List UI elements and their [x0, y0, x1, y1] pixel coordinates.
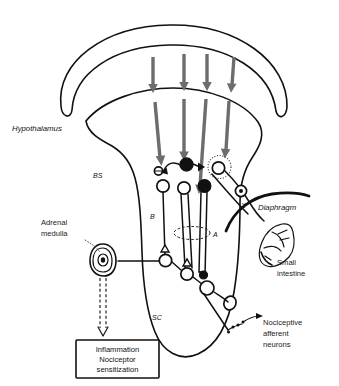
- afferent-bead-3: [237, 324, 240, 327]
- brainstem-spinalcord-outline: [86, 88, 262, 357]
- descending-arrow-4-lower: [221, 101, 231, 158]
- afferent-terminal-branch: [228, 324, 242, 330]
- label-nociceptive-2: afferent: [263, 329, 290, 338]
- nociceptive-afferent-group: [204, 292, 263, 334]
- label-vagus-x: X: [240, 202, 246, 209]
- inflammation-callout-box: Inflammation Nociceptor sensitization: [76, 340, 159, 378]
- label-brainstem: BS: [93, 172, 103, 179]
- neuroanatomy-diagram: Inflammation Nociceptor sensitization: [0, 0, 339, 386]
- label-pathway-a: A: [212, 231, 218, 238]
- bouton-B: [161, 245, 169, 252]
- afferent-leader-arrowhead: [256, 313, 263, 319]
- intestine-fold-3: [278, 230, 287, 234]
- adrenal-medulla-group: [85, 240, 159, 276]
- fiber-A-third: [199, 192, 201, 272]
- tract-A-highlight-oval: [174, 227, 210, 240]
- dorsal-root-ganglion: [222, 294, 238, 311]
- label-diaphragm: Diaphragm: [258, 203, 297, 212]
- label-spinal-cord: SC: [152, 314, 163, 321]
- fiber-A-left: [181, 194, 185, 268]
- soma-filled-a-pathway: [198, 180, 211, 193]
- label-hypothalamus: Hypothalamus: [12, 124, 62, 133]
- soma-open-a-pathway: [178, 182, 190, 194]
- label-small-intestine-1: Small: [277, 258, 296, 267]
- callout-line-1: Inflammation: [96, 345, 139, 354]
- inhibitory-synapse-icon: [154, 167, 162, 175]
- soma-filled-premotor: [180, 158, 193, 171]
- label-nociceptive-1: Nociceptive: [263, 318, 302, 327]
- afferent-bead-2: [232, 326, 235, 329]
- adrenal-chromaffin-dot: [101, 257, 105, 263]
- figure-canvas: Inflammation Nociceptor sensitization: [0, 0, 339, 386]
- soma-IML-2: [181, 268, 193, 280]
- interneuron-link-1: [172, 262, 181, 270]
- label-nociceptive-3: neurons: [263, 340, 291, 349]
- descending-arrow-4-upper: [227, 57, 237, 93]
- callout-line-2: Nociceptor: [99, 355, 136, 364]
- label-pathway-b: B: [150, 213, 155, 220]
- soma-open-b-pathway: [157, 180, 169, 192]
- descending-arrow-2-lower: [179, 99, 189, 161]
- intestine-hatch: [265, 256, 271, 260]
- soma-IML-3: [200, 281, 214, 295]
- fiber-A-fourth: [205, 192, 207, 275]
- intestine-fold-1: [264, 246, 281, 251]
- label-adrenal-2: medulla: [41, 229, 68, 238]
- descending-arrow-3-upper: [202, 54, 212, 91]
- catecholamine-release-arrow: [98, 278, 108, 336]
- soma-open-vagal-premotor: [212, 162, 224, 174]
- descending-arrow-1-lower: [155, 102, 165, 166]
- descending-arrow-1-upper: [148, 57, 158, 93]
- vagal-ganglion-nucleus: [239, 189, 243, 193]
- cerebral-cortex-outline: [61, 25, 287, 117]
- afferent-central-branch: [214, 292, 228, 302]
- callout-line-3: sensitization: [97, 365, 139, 374]
- descending-arrow-2-upper: [179, 54, 189, 91]
- label-small-intestine-2: intestine: [277, 269, 305, 278]
- afferent-bead-1: [227, 331, 230, 334]
- fiber-A-right: [188, 194, 192, 268]
- soma-IML-1: [159, 254, 171, 266]
- label-adrenal-1: Adrenal: [41, 218, 67, 227]
- brainstem-neuron-group: [154, 156, 231, 195]
